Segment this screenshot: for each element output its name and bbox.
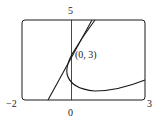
x-left-tick-label: −2 [6,99,17,109]
x-zero-tick-label: 0 [68,108,73,118]
x-right-tick-label: 3 [147,99,152,109]
y-top-tick-label: 5 [68,6,73,16]
plot-frame [22,20,145,100]
chart-svg [0,0,155,120]
tangent-line [48,20,92,100]
point-annotation: (0, 3) [75,50,97,60]
